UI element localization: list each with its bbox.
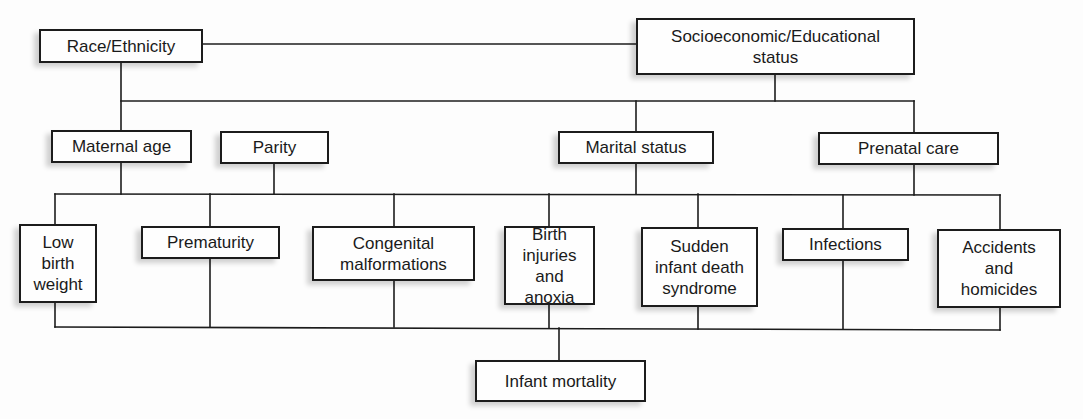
node-socioeconomic-educational-status: Socioeconomic/Educational status	[636, 18, 915, 75]
node-birth-injuries-and-anoxia: Birth injuries and anoxia	[504, 226, 595, 305]
node-low-birth-weight: Low birth weight	[19, 224, 97, 303]
node-parity: Parity	[220, 131, 329, 164]
node-congenital-malformations: Congenital malformations	[312, 226, 475, 281]
node-sudden-infant-death-syndrome: Sudden infant death syndrome	[641, 227, 758, 307]
node-maternal-age: Maternal age	[51, 130, 192, 163]
node-prematurity: Prematurity	[141, 226, 280, 259]
node-accidents-and-homicides: Accidents and homicides	[937, 229, 1061, 308]
connector-bottom-bus	[55, 327, 1000, 330]
node-marital-status: Marital status	[558, 131, 714, 164]
node-infections: Infections	[782, 228, 909, 261]
node-prenatal-care: Prenatal care	[818, 132, 999, 165]
infant-mortality-diagram: Race/Ethnicity Socioeconomic/Educational…	[0, 0, 1083, 419]
node-infant-mortality: Infant mortality	[475, 360, 646, 402]
connector-middle-bus	[55, 194, 1000, 195]
node-race-ethnicity: Race/Ethnicity	[39, 29, 203, 63]
